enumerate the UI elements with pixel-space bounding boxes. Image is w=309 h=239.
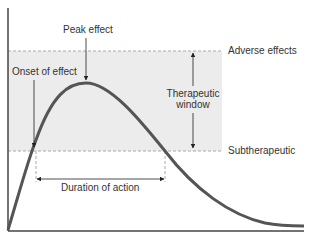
duration-of-action-label: Duration of action: [61, 182, 139, 193]
diagram-canvas: [0, 0, 309, 239]
therapeutic-window-line2: window: [163, 99, 223, 110]
peak-effect-label: Peak effect: [63, 24, 113, 35]
therapeutic-window-label: Therapeutic window: [163, 88, 223, 110]
subtherapeutic-label: Subtherapeutic: [228, 145, 295, 156]
onset-effect-label: Onset of effect: [12, 66, 77, 77]
adverse-effects-label: Adverse effects: [228, 45, 297, 56]
therapeutic-window-line1: Therapeutic: [163, 88, 223, 99]
